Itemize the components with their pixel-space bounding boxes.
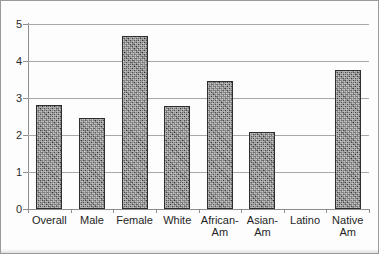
- x-axis-label-asian--am: Asian- Am: [241, 214, 284, 238]
- x-axis-label-overall: Overall: [28, 214, 71, 226]
- y-axis-tick-label: 2: [6, 130, 22, 141]
- bar-male[interactable]: [79, 118, 105, 209]
- x-tick-mark: [156, 209, 157, 213]
- x-tick-mark: [28, 209, 29, 213]
- x-axis-label-african--am: African- Am: [199, 214, 242, 238]
- bar-white[interactable]: [164, 106, 190, 209]
- y-tick-mark-2: [23, 135, 28, 136]
- x-axis-label-latino: Latino: [284, 214, 327, 226]
- x-tick-mark: [113, 209, 114, 213]
- bar-native-am[interactable]: [335, 70, 361, 209]
- y-tick-mark-3: [23, 98, 28, 99]
- bar-asian--am[interactable]: [249, 132, 275, 209]
- plot-area: 012345: [28, 24, 369, 209]
- x-axis-label-native-am: Native Am: [326, 214, 369, 238]
- y-axis-tick-label: 1: [6, 167, 22, 178]
- y-axis-tick-label: 3: [6, 93, 22, 104]
- bar-overall[interactable]: [36, 105, 62, 209]
- x-tick-mark: [199, 209, 200, 213]
- gridline-y-3: [28, 98, 369, 99]
- x-axis-label-white: White: [156, 214, 199, 226]
- x-tick-mark: [326, 209, 327, 213]
- y-axis-tick-label: 0: [6, 204, 22, 215]
- bar-african--am[interactable]: [207, 81, 233, 209]
- y-axis-tick-label: 4: [6, 56, 22, 67]
- y-tick-mark-5: [23, 24, 28, 25]
- y-tick-mark-4: [23, 61, 28, 62]
- x-tick-mark: [369, 209, 370, 213]
- y-axis-tick-label: 5: [6, 19, 22, 30]
- x-tick-mark: [241, 209, 242, 213]
- x-tick-mark: [71, 209, 72, 213]
- chart-frame: 012345 OverallMaleFemaleWhiteAfrican- Am…: [0, 0, 379, 254]
- x-axis-label-female: Female: [113, 214, 156, 226]
- x-axis-label-male: Male: [71, 214, 114, 226]
- x-tick-mark: [284, 209, 285, 213]
- bar-female[interactable]: [122, 36, 148, 209]
- gridline-y-4: [28, 61, 369, 62]
- y-tick-mark-1: [23, 172, 28, 173]
- gridline-y-5: [28, 24, 369, 25]
